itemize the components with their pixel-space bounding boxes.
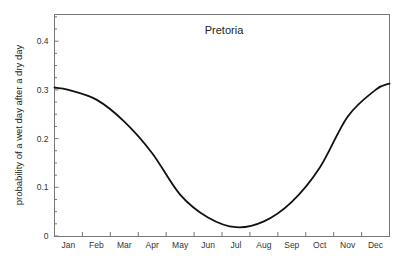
x-tick-label-jun: Jun	[201, 240, 215, 250]
x-tick-label-nov: Nov	[340, 240, 356, 250]
chart-title: Pretoria	[205, 24, 244, 36]
x-tick-label-may: May	[172, 240, 189, 250]
x-tick-label-dec: Dec	[368, 240, 384, 250]
y-axis: 00.10.20.30.4	[37, 17, 59, 241]
y-tick-label: 0.4	[37, 36, 49, 46]
y-tick-label: 0.3	[37, 85, 49, 95]
x-tick-label-jul: Jul	[231, 240, 242, 250]
x-tick-label-oct: Oct	[313, 240, 327, 250]
x-tick-label-mar: Mar	[117, 240, 132, 250]
x-tick-label-aug: Aug	[256, 240, 271, 250]
x-tick-label-jan: Jan	[62, 240, 76, 250]
x-tick-label-feb: Feb	[89, 240, 104, 250]
x-tick-label-apr: Apr	[146, 240, 159, 250]
x-tick-label-sep: Sep	[284, 240, 299, 250]
y-tick-label: 0.2	[37, 134, 49, 144]
data-line-pretoria	[55, 84, 390, 228]
y-axis-label: probability of a wet day after a dry day	[13, 44, 24, 205]
plot-frame	[55, 15, 390, 237]
line-chart: 00.10.20.30.4 JanFebMarAprMayJunJulAugSe…	[0, 0, 409, 260]
y-tick-label: 0.1	[37, 182, 49, 192]
x-axis: JanFebMarAprMayJunJulAugSepOctNovDec	[62, 232, 384, 250]
y-tick-label: 0	[44, 231, 49, 241]
